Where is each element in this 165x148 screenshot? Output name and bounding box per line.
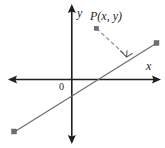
point-p-marker	[94, 26, 98, 30]
coordinate-plane-figure: y x 0 P(x, y)	[0, 0, 165, 148]
slanted-line-end-marker	[154, 41, 159, 46]
y-axis-label: y	[76, 6, 83, 20]
slanted-line	[15, 44, 156, 132]
slanted-line-start-marker	[12, 129, 17, 134]
origin-label: 0	[59, 81, 64, 92]
x-axis-label: x	[145, 59, 152, 73]
figure-canvas: y x 0 P(x, y)	[0, 0, 165, 148]
point-p-label: P(x, y)	[89, 9, 122, 23]
